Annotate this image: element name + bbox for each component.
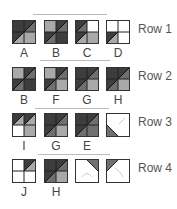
tile-pattern-icon	[45, 114, 67, 136]
row-label-2: Row 2	[138, 69, 172, 83]
tile-pattern-icon	[13, 21, 35, 43]
tile-g	[44, 113, 68, 137]
row-label-1: Row 1	[138, 22, 172, 36]
tile-label: F	[44, 94, 68, 106]
tile-label: G	[44, 140, 68, 152]
tile-label: D	[106, 47, 130, 59]
tile-pattern-icon	[76, 160, 98, 182]
tile-pattern-icon	[76, 21, 98, 43]
tile-c	[75, 20, 99, 44]
tile-label: A	[12, 47, 36, 59]
tile-pattern-icon	[107, 68, 129, 90]
row-label-4: Row 4	[138, 161, 172, 175]
tile-label: J	[12, 186, 36, 198]
arrow-row3	[35, 108, 109, 109]
tile-d	[106, 20, 130, 44]
tile-pattern-icon	[45, 160, 67, 182]
tile-blank	[106, 113, 130, 137]
tile-pattern-icon	[107, 114, 129, 136]
tile-e	[75, 113, 99, 137]
tile-pattern-icon	[76, 114, 98, 136]
arrow-row2	[40, 60, 110, 61]
tile-b	[44, 20, 68, 44]
tile-g	[75, 67, 99, 91]
tile-j	[12, 159, 36, 183]
tile-h	[106, 67, 130, 91]
tile-label: G	[75, 94, 99, 106]
tile-label: H	[106, 94, 130, 106]
row-label-3: Row 3	[138, 115, 172, 129]
tile-f	[44, 67, 68, 91]
arrow-row1	[33, 14, 107, 15]
tile-pattern-icon	[45, 68, 67, 90]
tile-pattern-icon	[76, 68, 98, 90]
tile-pattern-icon	[13, 114, 35, 136]
tile-label: B	[44, 47, 68, 59]
tile-label: H	[44, 186, 68, 198]
tile-label: B	[12, 94, 36, 106]
tile-pattern-icon	[107, 160, 129, 182]
tile-a	[12, 20, 36, 44]
tile-pattern-icon	[13, 160, 35, 182]
tile-h	[44, 159, 68, 183]
tile-label: I	[12, 140, 36, 152]
tile-blank	[106, 159, 130, 183]
tile-b	[12, 67, 36, 91]
tile-i	[12, 113, 36, 137]
tile-pattern-icon	[107, 21, 129, 43]
tile-label: C	[75, 47, 99, 59]
tile-label: E	[75, 140, 99, 152]
arrow-row4	[38, 154, 110, 155]
tile-pattern-icon	[13, 68, 35, 90]
tile-blank	[75, 159, 99, 183]
tile-pattern-icon	[45, 21, 67, 43]
